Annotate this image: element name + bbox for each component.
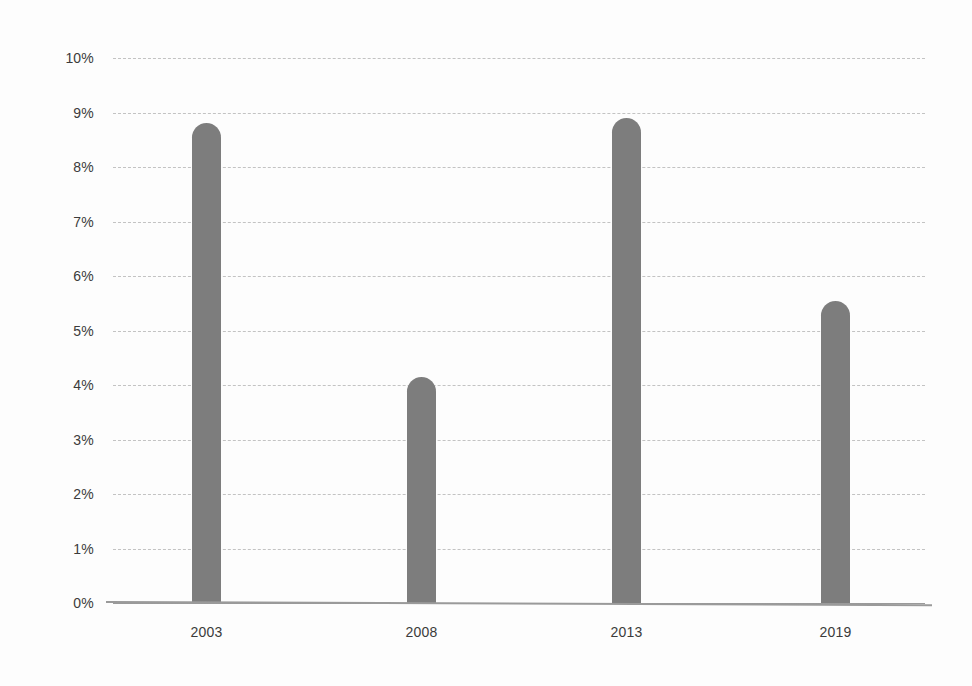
y-axis-tick-label: 6% — [34, 268, 94, 284]
gridline — [113, 549, 925, 550]
x-axis-tick-label: 2008 — [362, 624, 482, 640]
chart-page: 0%1%2%3%4%5%6%7%8%9%10% 2003200820132019 — [0, 0, 972, 686]
gridline — [113, 58, 925, 59]
y-axis-tick-label: 0% — [34, 595, 94, 611]
gridline — [113, 385, 925, 386]
y-axis-tick-label: 9% — [34, 105, 94, 121]
plot-area — [113, 58, 925, 603]
y-axis-tick-label: 4% — [34, 377, 94, 393]
gridline — [113, 113, 925, 114]
y-axis-tick-label: 10% — [34, 50, 94, 66]
y-axis: 0%1%2%3%4%5%6%7%8%9%10% — [34, 58, 94, 603]
gridline — [113, 276, 925, 277]
y-axis-tick-label: 8% — [34, 159, 94, 175]
gridline — [113, 222, 925, 223]
x-axis-tick-label: 2013 — [567, 624, 687, 640]
bar[interactable] — [407, 377, 436, 603]
bar[interactable] — [612, 118, 641, 603]
y-axis-tick-label: 3% — [34, 432, 94, 448]
x-axis-tick-label: 2019 — [776, 624, 896, 640]
bar[interactable] — [192, 123, 221, 603]
x-axis: 2003200820132019 — [113, 624, 925, 654]
gridline — [113, 167, 925, 168]
y-axis-tick-label: 5% — [34, 323, 94, 339]
x-axis-tick-label: 2003 — [147, 624, 267, 640]
bar[interactable] — [821, 301, 850, 603]
gridline — [113, 331, 925, 332]
gridline — [113, 494, 925, 495]
y-axis-tick-label: 2% — [34, 486, 94, 502]
y-axis-tick-label: 7% — [34, 214, 94, 230]
y-axis-tick-label: 1% — [34, 541, 94, 557]
gridline — [113, 440, 925, 441]
